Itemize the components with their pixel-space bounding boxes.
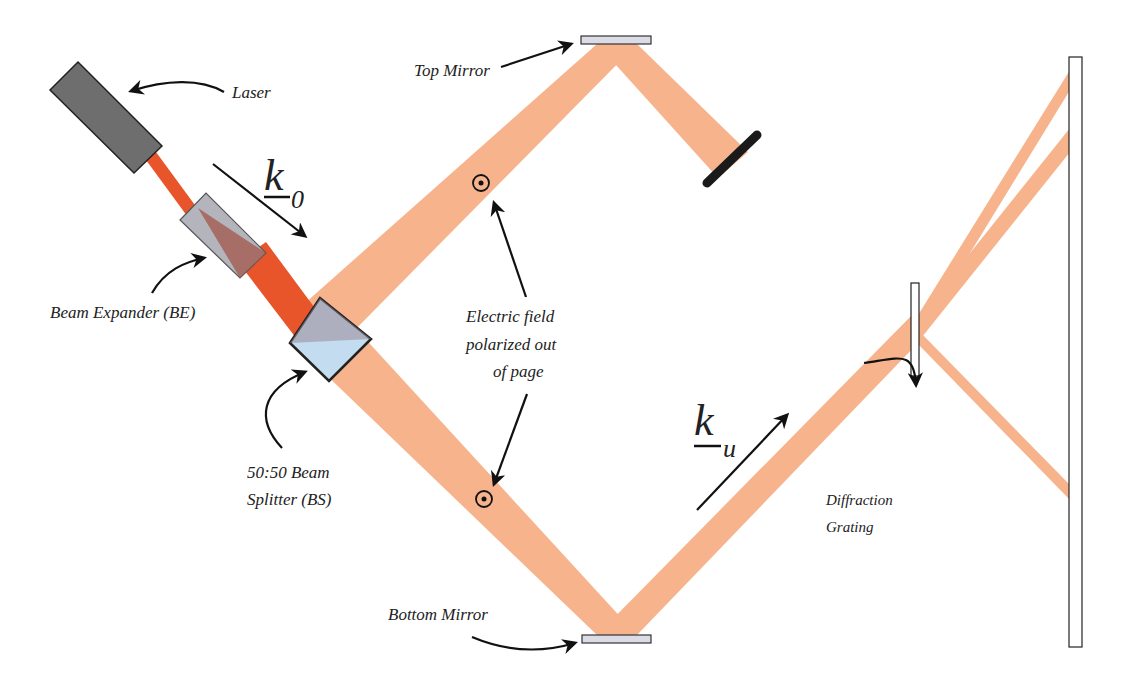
beam-diffracted-middle — [915, 128, 1070, 342]
label-top-mirror: Top Mirror — [414, 61, 490, 80]
label-efield-1: Electric field — [465, 307, 555, 326]
top-mirror — [581, 36, 651, 44]
arrow-laser — [131, 82, 224, 92]
optics-diagram: Laser Top Mirror Beam Expander (BE) 50:5… — [0, 0, 1122, 686]
wavevector-k0: k 0 — [264, 151, 304, 214]
beam-top-mirror-to-dump — [597, 44, 748, 178]
laser-body — [50, 62, 162, 173]
label-laser: Laser — [231, 83, 271, 102]
svg-text:k: k — [264, 151, 285, 200]
arrow-top-mirror — [501, 44, 571, 67]
label-efield-2: polarized out — [465, 335, 557, 354]
label-beam-expander: Beam Expander (BE) — [50, 303, 196, 322]
label-grating-1: Diffraction — [825, 492, 893, 508]
beam-diffracted-lower — [918, 330, 1070, 500]
svg-text:k: k — [694, 396, 715, 445]
svg-text:u: u — [723, 434, 736, 463]
label-beam-splitter-1: 50:50 Beam — [247, 463, 330, 482]
wavevector-ku: k u — [694, 396, 736, 463]
arrow-bottom-mirror — [472, 637, 575, 649]
svg-text:0: 0 — [291, 185, 304, 214]
beam-bs-to-top-mirror — [295, 44, 637, 345]
laser — [50, 62, 162, 173]
label-grating-2: Grating — [826, 519, 874, 535]
label-efield-3: of page — [493, 362, 544, 381]
bottom-mirror — [582, 635, 651, 643]
beam-expander — [180, 193, 266, 278]
arrow-efield-down — [494, 394, 527, 484]
diffraction-grating — [911, 283, 919, 376]
arrow-beam-expander — [152, 258, 204, 293]
screen — [1069, 57, 1082, 647]
label-beam-splitter-2: Splitter (BS) — [247, 490, 332, 509]
arrow-efield-up — [494, 203, 526, 297]
beams — [293, 44, 1070, 635]
label-bottom-mirror: Bottom Mirror — [388, 605, 488, 624]
arrow-beam-splitter — [266, 372, 305, 448]
